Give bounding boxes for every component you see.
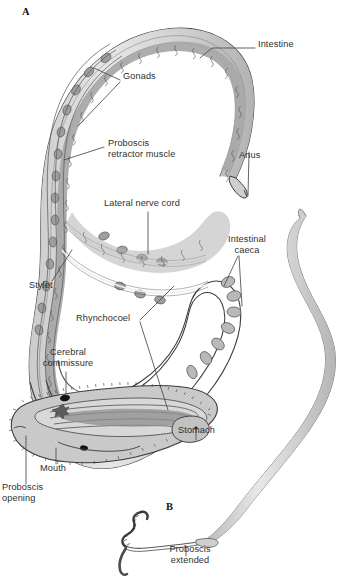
label-rhynchocoel: Rhynchocoel <box>76 313 130 324</box>
label-anus: Anus <box>239 150 260 161</box>
label-cerebral-commissure: Cerebral commissure <box>33 347 103 368</box>
label-lateral-nerve-cord: Lateral nerve cord <box>104 198 180 209</box>
label-gonads: Gonads <box>123 71 156 82</box>
label-intestine: Intestine <box>258 39 294 50</box>
label-stomach: Stomach <box>178 425 215 436</box>
label-mouth: Mouth <box>40 463 66 474</box>
label-proboscis-retractor-muscle: Proboscis retractor muscle <box>108 138 175 159</box>
panel-a-diagram <box>9 28 335 575</box>
label-intestinal-caeca: Intestinal caeca <box>219 234 275 255</box>
panel-b-letter: B <box>166 501 173 512</box>
label-proboscis-extended: Proboscis extended <box>158 544 222 565</box>
whole-body-outline <box>196 209 335 545</box>
label-proboscis-opening: Proboscis opening <box>2 482 43 503</box>
label-stylet: Stylet <box>29 280 53 291</box>
anus-tip <box>229 176 247 198</box>
panel-a-letter: A <box>22 6 30 17</box>
